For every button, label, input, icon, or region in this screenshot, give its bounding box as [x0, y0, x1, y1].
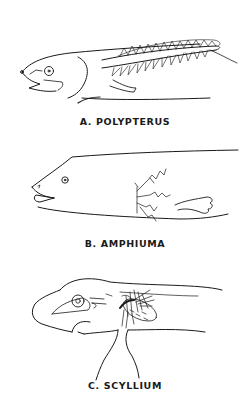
caption-scyllium: C. SCYLLIUM [0, 380, 250, 391]
panel-scyllium: C. SCYLLIUM [0, 270, 250, 404]
panel-amphiuma: B. AMPHIUMA [0, 135, 250, 260]
caption-polypterus: A. POLYPTERUS [0, 116, 250, 127]
panel-polypterus: A. POLYPTERUS [0, 0, 250, 135]
caption-amphiuma: B. AMPHIUMA [0, 238, 250, 249]
polypterus-drawing [0, 0, 250, 135]
figure-external-gills: A. POLYPTERUS [0, 0, 250, 404]
